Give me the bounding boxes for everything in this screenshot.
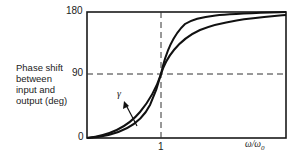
- plot-frame: [87, 12, 286, 138]
- curve-large-gamma: [87, 15, 286, 138]
- curve-small-gamma: [87, 12, 286, 138]
- plot-area: [0, 0, 302, 155]
